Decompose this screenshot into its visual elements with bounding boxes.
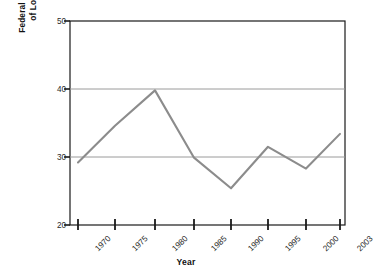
- plot-frame: [70, 21, 345, 225]
- x-axis-label: Year: [0, 257, 372, 267]
